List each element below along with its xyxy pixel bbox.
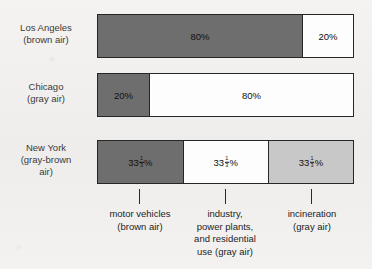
bar-chicago: 20% 80% — [97, 73, 354, 117]
segment-value-label: 20% — [114, 90, 133, 101]
fraction-numerator: 1 — [310, 156, 313, 161]
legend-caption-motor-vehicles: motor vehicles (brown air) — [96, 208, 184, 233]
leader-tick-industry — [225, 189, 226, 204]
legend-caption-incineration: incineration (gray air) — [268, 208, 356, 233]
leader-tick-incineration — [311, 189, 312, 204]
mixed-fraction: 1 3 — [225, 156, 230, 169]
mixed-fraction: 1 3 — [139, 156, 144, 169]
legend-caption-line: and residential — [181, 233, 269, 246]
fraction-numerator: 1 — [225, 156, 228, 161]
segment-new-york-motor-vehicles: 33 1 3 % — [98, 141, 183, 183]
fraction-denominator: 3 — [310, 163, 313, 168]
segment-chicago-industry: 80% — [149, 74, 353, 116]
segment-chicago-motor-vehicles: 20% — [98, 74, 149, 116]
mixed-fraction: 1 3 — [310, 156, 315, 169]
mixed-suffix: % — [229, 157, 237, 168]
mixed-whole: 33 — [128, 157, 139, 168]
segment-value-label: 20% — [318, 31, 337, 42]
bar-los-angeles: 80% 20% — [97, 14, 354, 58]
segment-value-label: 33 1 3 % — [128, 156, 152, 169]
row-label-line: (brown air) — [0, 34, 92, 46]
legend-caption-industry: industry, power plants, and residential … — [181, 208, 269, 258]
row-label-line: air) — [0, 166, 92, 178]
bar-new-york: 33 1 3 % 33 1 3 % — [97, 140, 354, 184]
mixed-suffix: % — [144, 157, 152, 168]
row-label-line: Los Angeles — [0, 22, 92, 34]
segment-new-york-incineration: 33 1 3 % — [268, 141, 353, 183]
row-label-line: (gray-brown — [0, 154, 92, 166]
legend-caption-line: industry, — [181, 208, 269, 221]
row-label-line: Chicago — [0, 81, 92, 93]
segment-los-angeles-motor-vehicles: 80% — [98, 15, 302, 57]
legend-caption-line: incineration — [268, 208, 356, 221]
row-label-new-york: New York (gray-brown air) — [0, 142, 92, 178]
segment-los-angeles-industry: 20% — [302, 15, 353, 57]
mixed-whole: 33 — [299, 157, 310, 168]
row-label-chicago: Chicago (gray air) — [0, 81, 92, 105]
legend-caption-line: power plants, — [181, 221, 269, 234]
legend-caption-line: (brown air) — [96, 221, 184, 234]
fraction-numerator: 1 — [140, 156, 143, 161]
legend-caption-line: (gray air) — [268, 221, 356, 234]
row-label-line: New York — [0, 142, 92, 154]
fraction-denominator: 3 — [225, 163, 228, 168]
row-label-los-angeles: Los Angeles (brown air) — [0, 22, 92, 46]
mixed-whole: 33 — [214, 157, 225, 168]
segment-value-label: 80% — [190, 31, 209, 42]
segment-value-label: 33 1 3 % — [299, 156, 323, 169]
leader-tick-motor-vehicles — [139, 189, 140, 204]
legend-caption-line: motor vehicles — [96, 208, 184, 221]
stacked-bar-chart-figure: Los Angeles (brown air) 80% 20% Chicago … — [0, 0, 372, 269]
mixed-suffix: % — [315, 157, 323, 168]
segment-value-label: 33 1 3 % — [214, 156, 238, 169]
fraction-denominator: 3 — [140, 163, 143, 168]
segment-value-label: 80% — [242, 90, 261, 101]
row-label-line: (gray air) — [0, 93, 92, 105]
segment-new-york-industry: 33 1 3 % — [183, 141, 268, 183]
legend-caption-line: use (gray air) — [181, 246, 269, 259]
